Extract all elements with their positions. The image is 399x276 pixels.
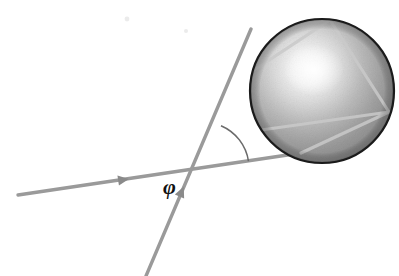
secondary-ray-group [146, 29, 251, 276]
angle-arc [221, 126, 249, 162]
sphere-group [250, 19, 394, 163]
incident-ray-group [18, 153, 301, 195]
scan-artifacts [125, 17, 188, 33]
angle-label-phi: φ [163, 176, 176, 198]
figure-canvas: φ [0, 0, 399, 276]
sphere-specular-highlight [284, 44, 344, 96]
secondary-ray [146, 29, 251, 276]
optics-diagram [0, 0, 399, 276]
scan-artifact-0 [125, 17, 130, 22]
incident-ray [18, 153, 301, 195]
scan-artifact-1 [184, 29, 188, 33]
